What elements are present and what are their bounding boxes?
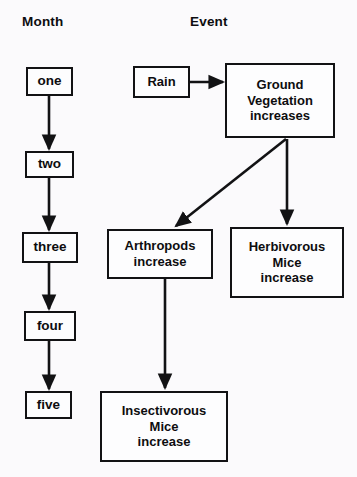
node-two[interactable]: two bbox=[25, 151, 74, 178]
node-label-two: two bbox=[35, 156, 64, 172]
node-insectivorous-mice[interactable]: Insectivorous Mice increase bbox=[100, 391, 228, 462]
diagram-canvas: Month Event onetwothreefourfive RainGrou… bbox=[0, 0, 357, 477]
node-ground-vegetation[interactable]: Ground Vegetation increases bbox=[225, 63, 335, 138]
column-header-month: Month bbox=[22, 14, 63, 29]
node-label-herbivorous-mice: Herbivorous Mice increase bbox=[246, 239, 329, 287]
node-label-insectivorous-mice: Insectivorous Mice increase bbox=[119, 403, 210, 451]
arrow-ground-to-arthropods bbox=[176, 139, 286, 226]
column-header-event: Event bbox=[190, 14, 228, 29]
node-label-rain: Rain bbox=[144, 74, 178, 90]
node-three[interactable]: three bbox=[22, 232, 78, 263]
node-label-five: five bbox=[34, 397, 63, 413]
node-five[interactable]: five bbox=[25, 391, 72, 419]
node-label-arthropods: Arthropods increase bbox=[122, 238, 199, 270]
node-arthropods[interactable]: Arthropods increase bbox=[107, 229, 213, 279]
node-four[interactable]: four bbox=[24, 311, 76, 341]
node-label-four: four bbox=[34, 318, 66, 334]
node-herbivorous-mice[interactable]: Herbivorous Mice increase bbox=[230, 227, 344, 298]
node-label-ground-vegetation: Ground Vegetation increases bbox=[244, 77, 316, 125]
node-rain[interactable]: Rain bbox=[133, 66, 190, 98]
node-label-three: three bbox=[30, 239, 69, 255]
node-one[interactable]: one bbox=[26, 67, 73, 96]
node-label-one: one bbox=[34, 73, 64, 89]
